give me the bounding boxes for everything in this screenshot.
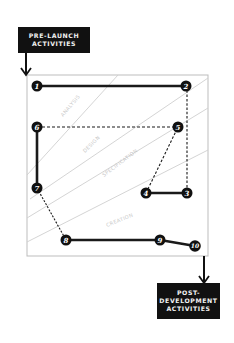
node-5-label: 5	[176, 123, 181, 132]
node-8[interactable]: 8	[61, 235, 72, 246]
node-4-label: 4	[144, 189, 149, 198]
pre-launch-line2: ACTIVITIES	[32, 40, 76, 48]
node-1[interactable]: 1	[32, 81, 43, 92]
end-arrow	[199, 256, 209, 283]
node-9[interactable]: 9	[155, 235, 166, 246]
post-dev-line3: ACTIVITIES	[166, 305, 210, 313]
node-5[interactable]: 5	[173, 122, 184, 133]
band-label-creation: CREATION	[105, 212, 134, 228]
start-arrow	[21, 53, 31, 75]
pre-launch-line1: PRE-LAUNCH	[29, 32, 80, 40]
node-1-label: 1	[35, 82, 40, 91]
post-development-activities-box: POST- DEVELOPMENT ACTIVITIES	[157, 283, 220, 319]
node-3-label: 3	[185, 189, 190, 198]
node-7[interactable]: 7	[32, 183, 43, 194]
node-9-label: 9	[158, 236, 163, 245]
band-label-design: DESIGN	[81, 134, 101, 154]
process-diagram: ANALYSIS DESIGN SPECIFICATION CREATION	[0, 0, 234, 343]
node-2-label: 2	[183, 82, 189, 91]
node-6[interactable]: 6	[32, 122, 43, 133]
node-8-label: 8	[64, 236, 69, 245]
post-dev-line1: POST-	[177, 289, 200, 297]
edge-7-8	[37, 188, 66, 240]
node-4[interactable]: 4	[141, 188, 152, 199]
node-2[interactable]: 2	[181, 81, 192, 92]
node-10-label: 10	[191, 242, 200, 249]
node-7-label: 7	[35, 184, 40, 193]
edge-4-5	[146, 127, 178, 193]
node-10[interactable]: 10	[189, 240, 201, 252]
band-divider-2	[30, 78, 208, 199]
pre-launch-activities-box: PRE-LAUNCH ACTIVITIES	[18, 27, 90, 53]
node-3[interactable]: 3	[182, 188, 193, 199]
band-label-specification: SPECIFICATION	[101, 147, 139, 177]
band-label-analysis: ANALYSIS	[59, 93, 81, 117]
node-6-label: 6	[35, 123, 40, 132]
post-dev-line2: DEVELOPMENT	[159, 297, 217, 305]
